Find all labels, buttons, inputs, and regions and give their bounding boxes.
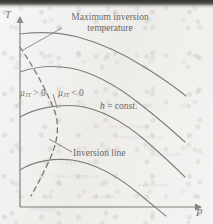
leader-inversion-line [49, 139, 72, 152]
enthalpy-symbol: h [100, 101, 105, 111]
scan-edge-band-fade [0, 5, 213, 8]
isenthalp-curve-1 [20, 33, 186, 96]
plot-canvas [0, 0, 213, 224]
joule-thomson-inversion-diagram: the inversion temperature of a gas is th… [0, 0, 213, 224]
max-inversion-line2: temperature [87, 23, 132, 33]
temperature-axis-label: T [5, 9, 11, 21]
leader-max-inversion [23, 28, 62, 50]
mu-subscript: JT [25, 91, 31, 98]
isenthalp-curve-3 [20, 105, 185, 177]
enthalpy-constant-text: = const. [107, 101, 137, 111]
mu-negative-relation: < 0 [71, 88, 83, 98]
enthalpy-constant-label: h = const. [100, 101, 137, 112]
mu-jt-negative-label: μJT < 0 [58, 88, 84, 99]
inversion-line-label: Inversion line [73, 148, 126, 159]
mu-subscript: JT [63, 91, 69, 98]
inversion-line-curve [20, 47, 57, 196]
mu-jt-positive-label: μJT > 0 [20, 88, 46, 99]
pressure-axis-label: P [196, 207, 202, 219]
max-inversion-temperature-label: Maximum inversion temperature [58, 12, 162, 33]
max-inversion-line1: Maximum inversion [71, 12, 148, 22]
mu-positive-relation: > 0 [33, 88, 45, 98]
